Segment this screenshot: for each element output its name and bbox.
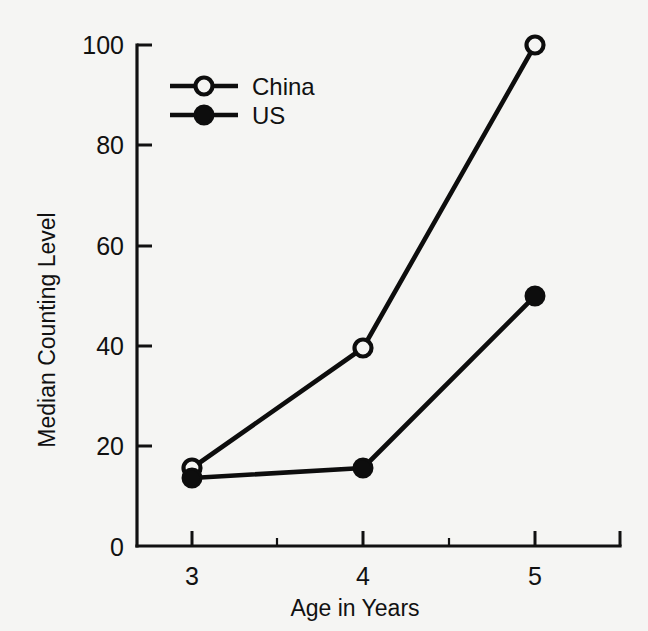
line-chart-svg: 100 80 60 40 20 0 3 4 5 Age in Years Med… <box>0 0 648 631</box>
data-point-us-age5 <box>526 287 544 305</box>
legend-label-china: China <box>252 73 315 100</box>
data-point-us-age4 <box>354 459 372 477</box>
legend-marker-open-circle-icon <box>196 78 213 95</box>
series-china <box>184 37 544 477</box>
y-tick-label-80: 80 <box>96 131 124 159</box>
data-point-china-age5 <box>527 37 544 54</box>
chart-legend: China US <box>170 73 315 129</box>
legend-label-us: US <box>252 102 285 129</box>
y-tick-label-0: 0 <box>110 533 124 561</box>
y-axis-ticks <box>137 45 152 446</box>
x-axis-ticks <box>192 531 535 546</box>
x-axis-title: Age in Years <box>290 595 419 621</box>
x-tick-label-3: 3 <box>185 562 199 590</box>
y-tick-label-60: 60 <box>96 232 124 260</box>
y-tick-label-100: 100 <box>82 31 124 59</box>
chart-figure: 100 80 60 40 20 0 3 4 5 Age in Years Med… <box>0 0 648 631</box>
y-axis-title: Median Counting Level <box>34 212 60 447</box>
data-point-us-age3 <box>183 469 201 487</box>
y-axis-tick-labels: 100 80 60 40 20 0 <box>82 31 124 561</box>
series-us-line <box>192 296 535 478</box>
y-tick-label-40: 40 <box>96 332 124 360</box>
x-tick-label-4: 4 <box>356 562 370 590</box>
series-us <box>183 287 544 487</box>
y-tick-label-20: 20 <box>96 432 124 460</box>
x-axis <box>137 531 620 546</box>
legend-marker-filled-circle-icon <box>195 106 213 124</box>
legend-entry-china: China <box>170 73 315 100</box>
x-tick-label-5: 5 <box>528 562 542 590</box>
x-axis-tick-labels: 3 4 5 <box>185 562 542 590</box>
series-china-line <box>192 45 535 468</box>
legend-entry-us: US <box>170 102 285 129</box>
data-point-china-age4 <box>355 340 372 357</box>
